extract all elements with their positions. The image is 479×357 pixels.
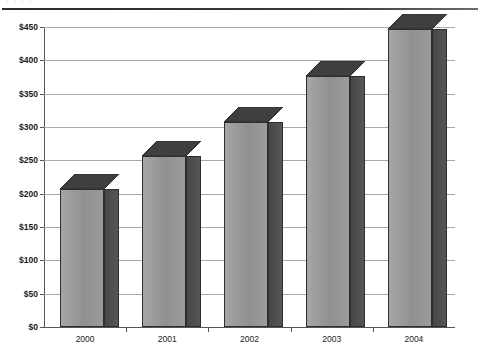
x-tick-mark	[208, 327, 209, 332]
clipped-header-text: · · · ·	[6, 0, 176, 6]
y-tick-mark	[40, 94, 44, 95]
bar-front-face	[306, 76, 350, 327]
bar-top-face	[224, 107, 284, 123]
bar-front-face	[224, 122, 268, 327]
x-tick-mark	[126, 327, 127, 332]
y-tick-label: $450	[19, 22, 38, 32]
bar-side-face	[186, 156, 201, 327]
x-tick-label-2002: 2002	[240, 334, 259, 344]
x-tick-label-2003: 2003	[322, 334, 341, 344]
bar-front-face	[142, 156, 186, 327]
y-axis-line	[44, 27, 45, 327]
bar-top-face	[306, 61, 366, 77]
bar-top-face	[60, 174, 120, 190]
x-tick-label-2001: 2001	[158, 334, 177, 344]
y-tick-mark	[40, 127, 44, 128]
chart-page: · · · · $0$50$100$150$200$250$300$350$40…	[0, 0, 479, 357]
bar-front-face	[388, 29, 432, 327]
bar-side-face	[268, 122, 283, 327]
bar-side-face	[432, 29, 447, 327]
y-tick-label: $350	[19, 89, 38, 99]
y-tick-label: $150	[19, 222, 38, 232]
y-tick-label: $300	[19, 122, 38, 132]
bar-front-face	[60, 189, 104, 327]
bar-2000	[60, 174, 119, 327]
y-tick-mark	[40, 294, 44, 295]
y-tick-mark	[40, 60, 44, 61]
bar-2003	[306, 61, 365, 327]
y-tick-mark	[40, 194, 44, 195]
bar-side-face	[350, 76, 365, 327]
bar-top-face	[142, 141, 202, 157]
y-tick-label: $50	[24, 289, 38, 299]
y-tick-label: $0	[29, 322, 38, 332]
x-tick-mark	[291, 327, 292, 332]
x-tick-label-2000: 2000	[76, 334, 95, 344]
y-tick-mark	[40, 27, 44, 28]
top-horizontal-rule	[2, 8, 478, 10]
y-tick-label: $100	[19, 255, 38, 265]
bar-2004	[388, 14, 447, 327]
y-tick-label: $400	[19, 55, 38, 65]
x-axis-line	[44, 327, 455, 328]
bar-2002	[224, 107, 283, 327]
y-tick-mark	[40, 260, 44, 261]
y-tick-mark	[40, 327, 44, 328]
bar-top-face	[388, 14, 448, 30]
y-tick-mark	[40, 227, 44, 228]
x-tick-label-2004: 2004	[404, 334, 423, 344]
y-tick-label: $250	[19, 155, 38, 165]
y-tick-label: $200	[19, 189, 38, 199]
x-tick-mark	[373, 327, 374, 332]
bar-2001	[142, 141, 201, 327]
bar-side-face	[104, 189, 119, 327]
y-tick-mark	[40, 160, 44, 161]
plot-area: $0$50$100$150$200$250$300$350$400$450 20…	[44, 27, 455, 327]
